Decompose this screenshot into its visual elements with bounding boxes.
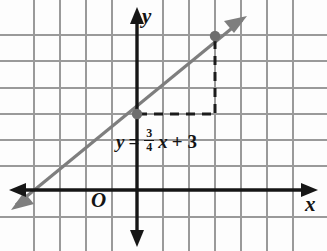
grid-lines xyxy=(0,0,327,251)
equation-variable: x xyxy=(158,132,168,151)
plotted-line-group xyxy=(11,16,247,210)
fraction-numerator: 3 xyxy=(144,127,154,140)
equation-fraction: 3 4 xyxy=(144,127,154,153)
x-axis-label: x xyxy=(305,194,316,215)
point-y-intercept xyxy=(132,109,142,119)
y-axis-arrow-down xyxy=(130,230,144,247)
point-second xyxy=(210,31,220,41)
equation-equals-sign: = xyxy=(127,132,140,151)
coordinate-plane-svg xyxy=(0,0,327,251)
equation-label: y = 3 4 x + 3 xyxy=(116,128,198,154)
equation-plus-sign: + xyxy=(171,132,184,151)
equation-lhs: y xyxy=(116,132,124,151)
origin-label: O xyxy=(91,190,106,211)
graph-figure: y x O y = 3 4 x + 3 xyxy=(0,0,327,251)
fraction-denominator: 4 xyxy=(144,140,154,154)
equation-constant: 3 xyxy=(187,132,199,151)
x-axis-arrow-left xyxy=(9,183,26,197)
y-axis-label: y xyxy=(142,6,151,27)
